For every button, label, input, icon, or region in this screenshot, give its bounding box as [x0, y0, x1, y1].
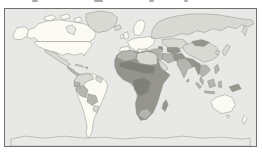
cropped-text-fragment — [184, 0, 188, 2]
screenshot-root — [0, 0, 263, 152]
region-libya-egypt — [136, 51, 157, 65]
region-sulawesi — [218, 81, 221, 88]
cropped-text-fragment — [149, 0, 154, 2]
world-map-svg — [5, 9, 256, 146]
cropped-text-fragment — [94, 0, 103, 2]
cropped-text-fragment — [32, 0, 38, 2]
world-map-figure — [4, 8, 257, 147]
